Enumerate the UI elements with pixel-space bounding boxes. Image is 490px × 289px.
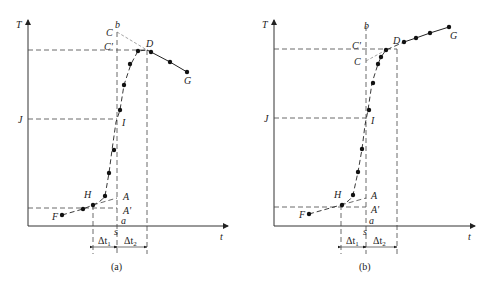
label-s: s [363, 226, 367, 237]
label-dt1: Δt1 [346, 235, 359, 248]
label-dt2: Δt2 [124, 235, 137, 248]
heating-curve [62, 50, 147, 215]
point-h [91, 203, 95, 207]
data-point [384, 48, 388, 52]
data-point [112, 148, 116, 152]
label-i: I [121, 117, 126, 128]
label-d: D [145, 38, 154, 49]
point-f [60, 213, 64, 217]
label-a-upper: A [370, 190, 378, 201]
label-b: b [364, 20, 369, 31]
heating-line-d-g [404, 27, 449, 42]
panel-a: T t C b C [16, 19, 228, 273]
label-f: F [298, 209, 306, 220]
line-h-a [341, 198, 366, 205]
data-point [356, 170, 360, 174]
label-c-prime: C' [104, 41, 114, 52]
point-f [307, 212, 311, 216]
data-point [103, 194, 107, 198]
line-c-d [366, 50, 386, 61]
data-point [379, 55, 383, 59]
label-c: C [354, 56, 361, 67]
y-axis-label: T [16, 19, 23, 30]
data-point [414, 36, 418, 40]
label-c: C [106, 27, 113, 38]
label-dt2: Δt2 [373, 235, 386, 248]
cooling-line-d-g [147, 50, 187, 72]
label-d: D [392, 35, 401, 46]
label-i: I [370, 115, 375, 126]
label-a-lower: a [369, 215, 374, 226]
data-point [136, 49, 140, 53]
point-d [402, 40, 406, 44]
line-c-d [117, 32, 147, 50]
label-s: s [114, 226, 118, 237]
label-h: H [333, 189, 342, 200]
data-point [118, 108, 122, 112]
panel-b: T t C b C' D G [262, 19, 475, 273]
label-g: G [450, 30, 457, 41]
temperature-time-diagram: T t C b C [0, 0, 490, 289]
point-d [149, 50, 153, 54]
data-point [168, 60, 172, 64]
label-j: J [264, 113, 269, 124]
data-point [367, 108, 371, 112]
data-point [128, 62, 132, 66]
x-axis-label: t [468, 231, 471, 242]
label-dt1: Δt1 [98, 235, 111, 248]
label-g: G [184, 75, 191, 86]
y-axis-label: T [262, 19, 269, 30]
label-f: F [51, 211, 59, 222]
data-point [107, 171, 111, 175]
data-point [81, 207, 85, 211]
data-point [376, 62, 380, 66]
data-point [360, 147, 364, 151]
data-point [351, 193, 355, 197]
caption-b: (b) [359, 261, 371, 273]
data-point [122, 83, 126, 87]
label-j: J [18, 114, 23, 125]
label-a-prime: A' [370, 204, 380, 215]
label-b: b [115, 19, 120, 30]
data-point [371, 81, 375, 85]
point-g [185, 70, 189, 74]
label-a-upper: A [122, 191, 130, 202]
line-h-a [93, 198, 117, 205]
label-h: H [83, 189, 92, 200]
x-axis-label: t [220, 231, 223, 242]
data-point [428, 31, 432, 35]
heating-curve [309, 42, 404, 214]
label-c-prime: C' [352, 40, 362, 51]
point-g [447, 25, 451, 29]
label-a-lower: a [121, 215, 126, 226]
point-h [340, 203, 344, 207]
caption-a: (a) [111, 261, 122, 273]
